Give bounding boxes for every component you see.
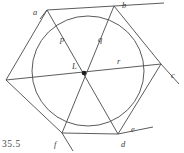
inscribed-circle (32, 16, 144, 126)
segment-label-q: q (98, 35, 102, 44)
geometric-figure: a b c d e f p q r L 35.5 (0, 0, 184, 153)
center-label-L: L (72, 62, 77, 71)
segment-label-p: p (60, 35, 64, 44)
vertex-label-e: e (131, 125, 135, 134)
upper-left-extension-line (40, 10, 47, 19)
figure-caption: 35.5 (2, 140, 21, 150)
segment-label-r: r (117, 57, 120, 66)
vertex-label-d: d (121, 140, 125, 149)
vertex-label-a: a (33, 8, 37, 17)
right-extension-line (161, 64, 179, 84)
center-point-dot (82, 71, 87, 76)
vertex-label-f: f (54, 140, 56, 149)
vertex-label-b: b (122, 1, 126, 10)
vertex-label-c: c (171, 71, 175, 80)
hexagon-outline (6, 6, 161, 134)
bottom-left-extension-line (62, 133, 73, 151)
bottom-extension-line (118, 127, 153, 134)
figure-canvas (0, 0, 184, 153)
